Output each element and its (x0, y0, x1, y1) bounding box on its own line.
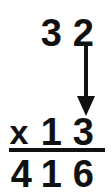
long-multiplication-worksheet: 3 2 x 1 3 4 1 6 (0, 0, 111, 196)
answer-rule-line (9, 148, 105, 152)
product-tens-digit: 1 (38, 155, 64, 193)
multiply-arrow-icon (75, 46, 97, 118)
arrow-shaft-icon (84, 46, 88, 100)
product-hundreds-digit: 4 (8, 155, 34, 193)
product-ones-digit: 6 (70, 155, 96, 193)
multiplier-tens-digit: 1 (38, 113, 64, 151)
multiplicand-tens-digit: 3 (38, 14, 64, 52)
multiplier-ones-digit: 3 (70, 113, 96, 151)
multiplication-operator: x (6, 115, 32, 149)
